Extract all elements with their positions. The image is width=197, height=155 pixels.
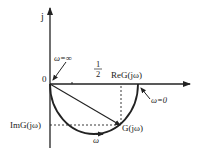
half-numerator: 1 <box>96 59 100 69</box>
omega-infinity-pointer <box>53 62 66 80</box>
imag-value-label: ImG(jω) <box>10 120 41 130</box>
omega-zero-label: ω=0 <box>151 95 168 105</box>
direction-label: ω <box>93 135 99 145</box>
omega-infinity-label: ω=∞ <box>54 53 72 63</box>
origin-label: 0 <box>42 74 47 84</box>
omega-zero-pointer <box>141 88 150 99</box>
imag-axis-label: j <box>40 11 44 22</box>
half-denominator: 2 <box>96 69 100 79</box>
vector-g <box>50 84 120 125</box>
point-label: G(jω) <box>122 123 143 133</box>
nyquist-diagram: j 0 ω=∞ 1 2 ReG(jω) ω=0 ImG(jω) G(jω) ω <box>0 0 197 155</box>
real-axis-label: ReG(jω) <box>111 70 142 80</box>
